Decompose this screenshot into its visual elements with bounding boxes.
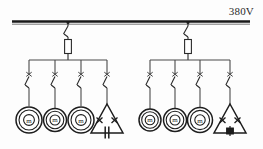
fuse-element-left: [65, 40, 72, 61]
motor-l1: m: [16, 107, 42, 133]
branch-switch-r4[interactable]: [226, 72, 233, 106]
main-busbar: [12, 22, 250, 25]
branch-r1: m: [139, 72, 161, 131]
branch-l1: m: [16, 72, 42, 133]
branch-l2: m: [44, 72, 67, 131]
motor-r2: m: [164, 109, 187, 132]
branch-switch-r1[interactable]: [146, 72, 153, 109]
motor-label-r1: m: [147, 116, 153, 124]
motor-label-r2: m: [172, 116, 178, 124]
motor-r3: m: [188, 108, 213, 133]
supply-voltage-label: 380V: [229, 5, 254, 17]
branch-switch-r2[interactable]: [171, 72, 178, 108]
motor-label-r3: m: [197, 117, 203, 125]
motor-l3: m: [68, 107, 94, 133]
feeder-right: m m: [139, 21, 246, 136]
branch-r3: m: [188, 72, 213, 132]
branch-switch-l3[interactable]: [77, 72, 84, 106]
schematic-diagram: m m: [0, 0, 263, 149]
motor-r1: m: [139, 109, 161, 131]
branch-r2: m: [164, 72, 187, 131]
knife-switch-right[interactable]: [184, 23, 189, 41]
resistor-block-icon: [227, 126, 234, 136]
branch-l4: [91, 72, 123, 138]
motor-label-l3: m: [78, 117, 84, 125]
fuse-element-right: [185, 40, 192, 61]
distribution-bar-left: [29, 60, 107, 74]
branch-switch-l1[interactable]: [25, 72, 32, 106]
motor-label-l2: m: [52, 116, 58, 124]
motor-label-l1: m: [26, 117, 32, 125]
branch-switch-l4[interactable]: [103, 72, 110, 106]
motor-l2: m: [44, 109, 67, 132]
distribution-bar-right: [150, 60, 230, 74]
delta-capacitor-load-left: [91, 104, 123, 139]
delta-resistor-load-right: [214, 104, 246, 136]
branch-switch-l2[interactable]: [51, 72, 58, 108]
knife-switch-left[interactable]: [64, 23, 69, 41]
schematic-canvas: m m: [0, 0, 263, 149]
feeder-left: m m: [16, 21, 123, 139]
branch-l3: m: [68, 72, 94, 133]
branch-r4: [214, 72, 246, 136]
branch-switch-r3[interactable]: [196, 72, 203, 107]
